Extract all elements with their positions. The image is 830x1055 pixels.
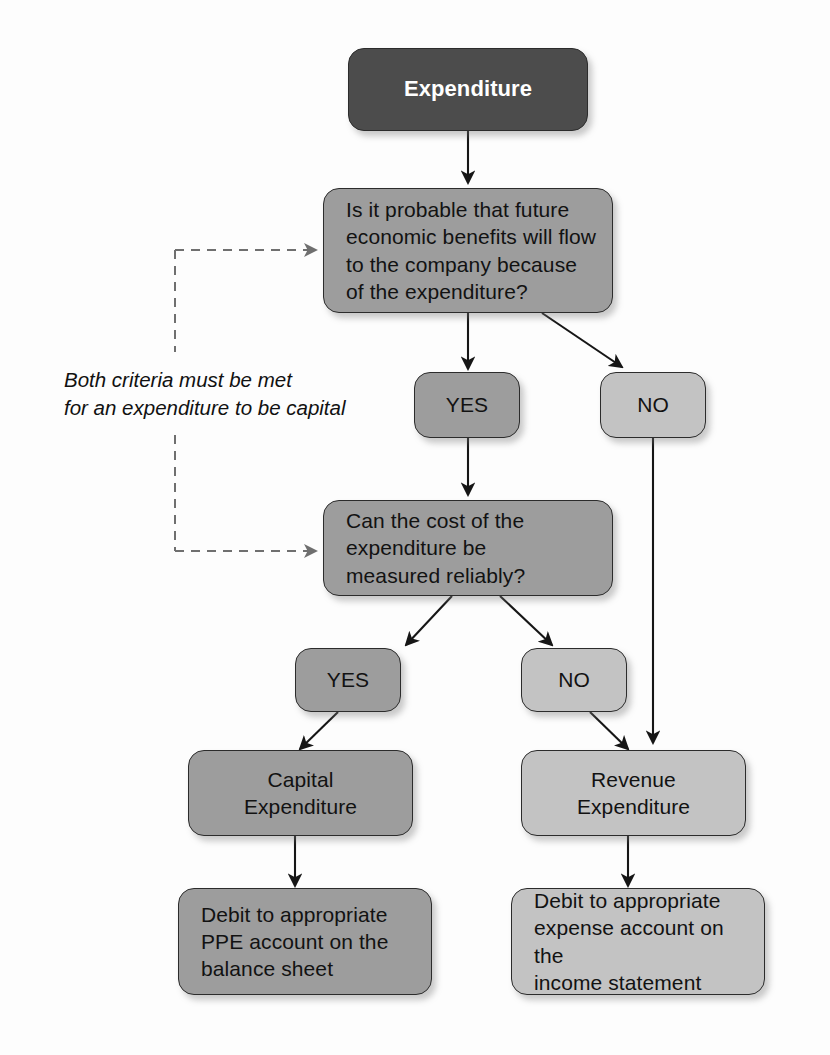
node-answer-no-1-label: NO xyxy=(601,391,705,418)
node-answer-no-2[interactable]: NO xyxy=(521,648,627,712)
node-expenditure[interactable]: Expenditure xyxy=(348,48,588,131)
edge-decision1-to-no1 xyxy=(542,313,622,367)
node-answer-no-1[interactable]: NO xyxy=(600,372,706,438)
node-action-debit-ppe[interactable]: Debit to appropriate PPE account on the … xyxy=(178,888,432,995)
node-action-debit-expense-label: Debit to appropriate expense account on … xyxy=(512,887,764,996)
edge-decision2-to-yes2 xyxy=(406,596,452,645)
node-action-debit-expense[interactable]: Debit to appropriate expense account on … xyxy=(511,888,765,995)
edge-decision2-to-no2 xyxy=(500,596,552,645)
node-outcome-revenue-expenditure[interactable]: Revenue Expenditure xyxy=(521,750,746,836)
edge-yes2-to-capital xyxy=(300,712,338,749)
annotation-both-criteria: Both criteria must be met for an expendi… xyxy=(64,366,384,421)
node-answer-yes-1-label: YES xyxy=(415,391,519,418)
node-answer-no-2-label: NO xyxy=(522,666,626,693)
node-answer-yes-2[interactable]: YES xyxy=(295,648,401,712)
flowchart-canvas: Expenditure Is it probable that future e… xyxy=(0,0,830,1055)
node-decision-probable-benefits-label: Is it probable that future economic bene… xyxy=(324,196,612,305)
node-outcome-capital-expenditure[interactable]: Capital Expenditure xyxy=(188,750,413,836)
node-outcome-revenue-expenditure-label: Revenue Expenditure xyxy=(522,766,745,821)
node-outcome-capital-expenditure-label: Capital Expenditure xyxy=(189,766,412,821)
edge-no2-to-revenue xyxy=(590,712,628,749)
node-decision-measured-reliably-label: Can the cost of the expenditure be measu… xyxy=(324,507,612,589)
node-answer-yes-1[interactable]: YES xyxy=(414,372,520,438)
node-expenditure-label: Expenditure xyxy=(349,75,587,104)
node-decision-probable-benefits[interactable]: Is it probable that future economic bene… xyxy=(323,188,613,313)
node-answer-yes-2-label: YES xyxy=(296,666,400,693)
node-decision-measured-reliably[interactable]: Can the cost of the expenditure be measu… xyxy=(323,500,613,596)
node-action-debit-ppe-label: Debit to appropriate PPE account on the … xyxy=(179,901,431,983)
